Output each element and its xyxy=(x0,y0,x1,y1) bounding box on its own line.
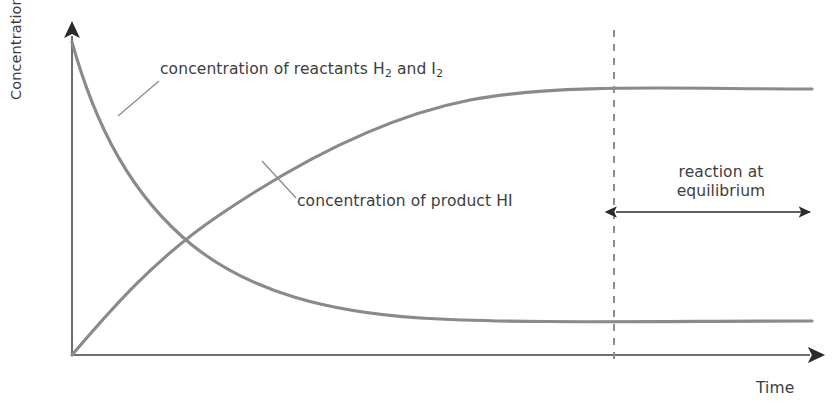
product-leader-line xyxy=(262,161,296,198)
product-curve-label: concentration of product HI xyxy=(297,192,513,211)
reactants-subscript-i2: 2 xyxy=(436,67,443,80)
reactants-subscript-h2: 2 xyxy=(385,67,392,80)
reactants-curve-label: concentration of reactants H2 and I2 xyxy=(160,60,443,81)
x-axis-title: Time xyxy=(756,379,794,398)
y-axis-title: Concentration xyxy=(8,0,26,100)
product-curve xyxy=(72,88,812,355)
equilibrium-label-line-2: equilibrium xyxy=(661,182,781,201)
equilibrium-concentration-graph: Concentration Time concentration of reac… xyxy=(0,0,836,418)
equilibrium-region-label: reaction atequilibrium xyxy=(661,163,781,201)
reactants-leader-line xyxy=(118,81,159,116)
equilibrium-label-line-1: reaction at xyxy=(661,163,781,182)
reactants-label-prefix: concentration of reactants H xyxy=(160,60,385,78)
reactants-label-middle: and I xyxy=(392,60,436,78)
